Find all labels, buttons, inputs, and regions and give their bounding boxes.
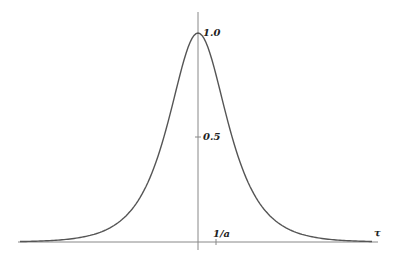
x-tick-label-1-over-a: 1/a <box>213 228 230 239</box>
x-axis-label: τ <box>374 227 381 238</box>
chart-plot: 1.0 0.5 1/a τ <box>0 0 394 260</box>
y-tick-label-1: 1.0 <box>203 27 220 38</box>
y-tick-label-0.5: 0.5 <box>203 131 220 142</box>
